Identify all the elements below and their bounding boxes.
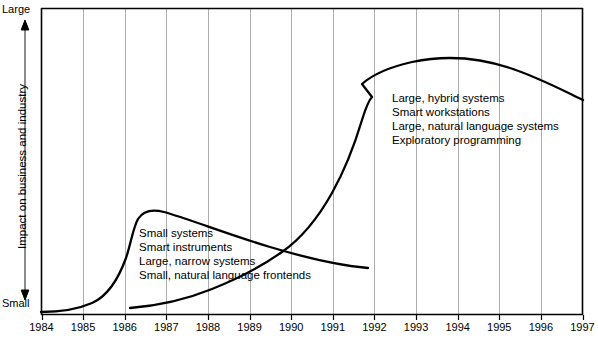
x-tick-label-1985: 1985 <box>63 321 103 334</box>
x-tick-label-1991: 1991 <box>313 321 353 334</box>
x-tick-label-1994: 1994 <box>438 321 478 334</box>
annotation-early-line-3: Large, narrow systems <box>139 254 311 268</box>
annotation-late-technologies: Large, hybrid systemsSmart workstationsL… <box>392 91 559 147</box>
x-tick-label-1989: 1989 <box>230 321 270 334</box>
x-tick-label-1997: 1997 <box>563 321 598 334</box>
annotation-early-technologies: Small systemsSmart instrumentsLarge, nar… <box>139 226 311 282</box>
x-tick-label-1992: 1992 <box>354 321 394 334</box>
y-axis-min-label: Small <box>2 297 30 309</box>
annotation-early-line-1: Small systems <box>139 226 311 240</box>
annotation-late-line-3: Large, natural language systems <box>392 119 559 133</box>
x-tick-label-1986: 1986 <box>105 321 145 334</box>
annotation-early-line-4: Small, natural language frontends <box>139 268 311 282</box>
x-axis-ticks <box>43 315 584 320</box>
annotation-late-line-4: Exploratory programming <box>392 133 559 147</box>
x-tick-label-1988: 1988 <box>188 321 228 334</box>
x-tick-label-1987: 1987 <box>146 321 186 334</box>
x-tick-label-1996: 1996 <box>521 321 561 334</box>
annotation-early-line-2: Smart instruments <box>139 240 311 254</box>
annotation-late-line-1: Large, hybrid systems <box>392 91 559 105</box>
chart-canvas <box>0 0 598 348</box>
y-axis-arrow-head-up <box>21 20 29 30</box>
y-axis-max-label: Large <box>2 3 30 15</box>
annotation-late-line-2: Smart workstations <box>392 105 559 119</box>
y-axis-title: Impact on business and industry <box>16 82 29 252</box>
x-tick-label-1990: 1990 <box>271 321 311 334</box>
x-tick-label-1984: 1984 <box>22 321 62 334</box>
x-tick-label-1995: 1995 <box>479 321 519 334</box>
x-tick-label-1993: 1993 <box>396 321 436 334</box>
